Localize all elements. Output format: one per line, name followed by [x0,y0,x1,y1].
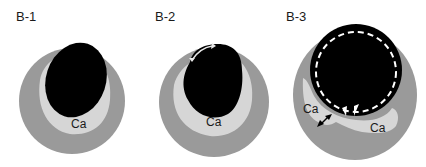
calcium-label: Ca [370,121,386,135]
calcium-label: Ca [206,115,222,129]
figure-canvas: B-1 Ca B-2 Ca B-3 Ca Ca [0,0,426,167]
panel-b3: B-3 Ca Ca [286,9,417,160]
calcium-label: Ca [71,117,87,131]
calcium-label: Ca [303,102,319,116]
panel-b2: B-2 Ca [155,9,269,157]
lumen [310,24,402,116]
panel-label-b2: B-2 [155,9,175,24]
panel-b1: B-1 Ca [16,9,125,154]
panel-label-b1: B-1 [16,9,36,24]
panel-label-b3: B-3 [286,9,306,24]
